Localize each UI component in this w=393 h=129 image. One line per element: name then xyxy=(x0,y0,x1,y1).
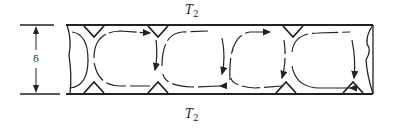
convection-diagram xyxy=(0,0,393,129)
